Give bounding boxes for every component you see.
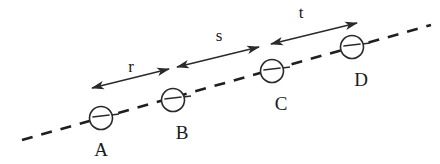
point-circle-a [90, 107, 113, 130]
point-circle-b [162, 89, 185, 112]
segment-diagram: r s t [0, 0, 440, 164]
point-label-group: A B C D [94, 69, 368, 160]
point-marker-a [89, 107, 119, 130]
segment-label-s: s [216, 26, 223, 45]
point-marker-d [340, 36, 370, 59]
segment-group [92, 23, 357, 88]
segment-label-r: r [128, 57, 134, 76]
point-label-a: A [94, 139, 108, 160]
point-circle-d [341, 36, 364, 59]
point-marker-group [89, 36, 370, 130]
point-marker-c [260, 60, 290, 83]
dashed-baseline [22, 25, 431, 140]
point-label-b: B [176, 122, 189, 143]
point-label-c: C [275, 93, 288, 114]
point-circle-c [261, 60, 284, 83]
point-marker-b [161, 89, 191, 112]
point-label-d: D [354, 69, 368, 90]
segment-arrow-s [177, 47, 259, 67]
diagram-canvas: r s t [0, 0, 440, 164]
segment-label-t: t [299, 3, 304, 22]
